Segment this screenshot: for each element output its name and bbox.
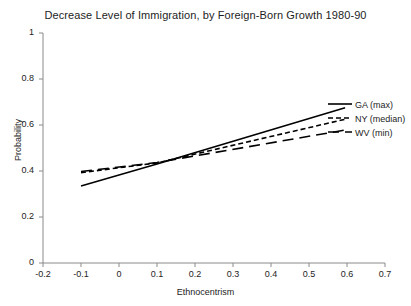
y-tick-marks bbox=[39, 33, 43, 263]
chart-plot-svg bbox=[0, 0, 411, 306]
legend-swatch-group bbox=[328, 104, 352, 132]
x-tick-marks bbox=[43, 263, 385, 267]
axes-group bbox=[39, 33, 385, 267]
data-series-group bbox=[81, 108, 345, 186]
series-line-ny bbox=[81, 119, 345, 172]
series-line-ga bbox=[81, 108, 345, 186]
series-line-wv bbox=[81, 130, 345, 171]
chart-container: Decrease Level of Immigration, by Foreig… bbox=[0, 0, 411, 306]
